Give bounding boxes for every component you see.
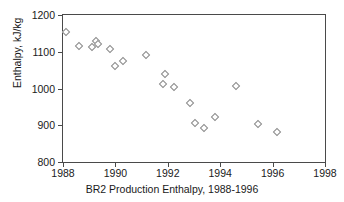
chart-figure: 800900100011001200 198819901992199419961… xyxy=(0,0,344,202)
x-axis-tick-label: 1996 xyxy=(261,168,284,179)
data-point-marker xyxy=(61,27,69,35)
data-point-marker xyxy=(161,70,169,78)
data-point-marker xyxy=(211,113,219,121)
scatter-series-layer xyxy=(63,15,325,162)
y-axis-tick-label: 1100 xyxy=(32,47,55,58)
x-axis-tick-label: 1990 xyxy=(104,168,127,179)
data-point-marker xyxy=(191,118,199,126)
y-axis-tick-label: 1200 xyxy=(32,10,55,21)
data-point-marker xyxy=(272,128,280,136)
data-point-marker xyxy=(74,42,82,50)
y-axis-tick xyxy=(58,125,63,126)
data-point-marker xyxy=(200,124,208,132)
data-point-marker xyxy=(186,99,194,107)
y-axis-title: Enthalpy, kJ/kg xyxy=(12,18,23,88)
plot-area: 800900100011001200 198819901992199419961… xyxy=(62,14,326,163)
x-axis-title: BR2 Production Enthalpy, 1988-1996 xyxy=(0,184,344,195)
y-axis-tick-label: 1000 xyxy=(32,83,55,94)
x-axis-tick-label: 1994 xyxy=(209,168,232,179)
y-axis-tick-label: 900 xyxy=(37,120,55,131)
y-axis-tick xyxy=(58,52,63,53)
y-axis-tick-label: 800 xyxy=(37,157,55,168)
y-axis-tick xyxy=(58,89,63,90)
y-axis-tick xyxy=(58,15,63,16)
data-point-marker xyxy=(119,56,127,64)
data-point-marker xyxy=(158,80,166,88)
x-axis-tick-label: 1998 xyxy=(313,168,336,179)
data-point-marker xyxy=(111,62,119,70)
data-point-marker xyxy=(170,82,178,90)
x-axis-tick-label: 1992 xyxy=(156,168,179,179)
data-point-marker xyxy=(106,45,114,53)
x-axis-tick-label: 1988 xyxy=(51,168,74,179)
data-point-marker xyxy=(232,82,240,90)
data-point-marker xyxy=(141,50,149,58)
data-point-marker xyxy=(254,120,262,128)
